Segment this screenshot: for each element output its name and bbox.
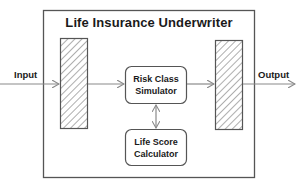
output-label: Output — [258, 69, 289, 80]
life-score-calculator-label: Life Score Calculator — [126, 130, 186, 165]
life-score-line1: Life Score — [134, 136, 178, 148]
input-buffer-block — [61, 39, 88, 129]
risk-class-simulator-label: Risk Class Simulator — [126, 67, 186, 103]
risk-class-line1: Risk Class — [133, 73, 179, 85]
input-label: Input — [14, 69, 37, 80]
output-buffer-block — [216, 41, 243, 130]
life-score-line2: Calculator — [134, 148, 178, 160]
risk-class-line2: Simulator — [135, 85, 177, 97]
diagram-title: Life Insurance Underwriter — [43, 15, 255, 30]
